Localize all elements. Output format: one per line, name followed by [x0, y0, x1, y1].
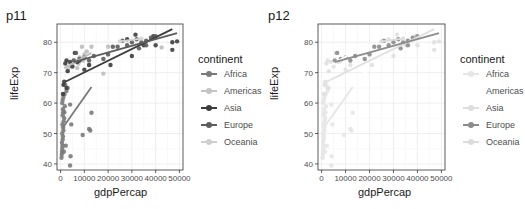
legend-label: Europe: [224, 120, 253, 130]
legend-title: continent: [198, 53, 243, 65]
svg-text:70: 70: [304, 69, 313, 78]
svg-text:60: 60: [43, 99, 52, 108]
legend-key-icon: [200, 103, 218, 113]
legend-label: Oceania: [224, 137, 258, 147]
plot-p11: p11 010000200003000040000500004050607080…: [0, 0, 262, 209]
legend-item-africa: Africa: [462, 69, 509, 79]
svg-text:20000: 20000: [358, 174, 381, 183]
legend-label: Africa: [486, 69, 509, 79]
svg-text:40: 40: [43, 160, 52, 169]
svg-text:80: 80: [43, 38, 52, 47]
legend-item-asia: Asia: [462, 103, 504, 113]
legend-key-icon: [462, 137, 480, 147]
svg-text:10000: 10000: [334, 174, 357, 183]
svg-text:40000: 40000: [145, 174, 168, 183]
svg-text:50000: 50000: [430, 174, 453, 183]
svg-text:80: 80: [304, 38, 313, 47]
legend-key-icon: [200, 69, 218, 79]
legend-label: Americas: [224, 86, 262, 96]
legend-label: Oceania: [486, 137, 520, 147]
y-axis-label: lifeExp: [268, 67, 280, 100]
legend-title: continent: [460, 53, 505, 65]
svg-text:60: 60: [304, 99, 313, 108]
legend-label: Americas: [486, 86, 524, 96]
x-axis-label: gdpPercap: [94, 186, 147, 198]
svg-text:0: 0: [319, 174, 324, 183]
svg-text:50: 50: [304, 130, 313, 139]
svg-text:40000: 40000: [406, 174, 429, 183]
legend-item-asia: Asia: [200, 103, 242, 113]
legend-label: Europe: [486, 120, 515, 130]
legend-label: Asia: [486, 103, 504, 113]
legend-key-icon: [462, 86, 480, 96]
legend-item-europe: Europe: [200, 120, 253, 130]
svg-text:70: 70: [43, 69, 52, 78]
legend-label: Asia: [224, 103, 242, 113]
legend-key-icon: [462, 69, 480, 79]
legend-item-americas: Americas: [462, 86, 524, 96]
legend-item-europe: Europe: [462, 120, 515, 130]
svg-text:50: 50: [43, 130, 52, 139]
legend-key-icon: [200, 137, 218, 147]
svg-text:20000: 20000: [97, 174, 120, 183]
legend-item-oceania: Oceania: [462, 137, 520, 147]
svg-text:0: 0: [58, 174, 63, 183]
legend-key-icon: [462, 120, 480, 130]
legend-item-americas: Americas: [200, 86, 262, 96]
y-axis-label: lifeExp: [8, 67, 20, 100]
legend-key-icon: [462, 103, 480, 113]
legend-key-icon: [200, 120, 218, 130]
svg-text:30000: 30000: [382, 174, 405, 183]
svg-text:50000: 50000: [168, 174, 191, 183]
svg-text:10000: 10000: [73, 174, 96, 183]
legend-item-africa: Africa: [200, 69, 247, 79]
plot-p12: p12 010000200003000040000500004050607080…: [262, 0, 524, 209]
svg-text:40: 40: [304, 160, 313, 169]
legend-key-icon: [200, 86, 218, 96]
legend-item-oceania: Oceania: [200, 137, 258, 147]
x-axis-label: gdpPercap: [358, 186, 411, 198]
legend-label: Africa: [224, 69, 247, 79]
svg-text:30000: 30000: [121, 174, 144, 183]
